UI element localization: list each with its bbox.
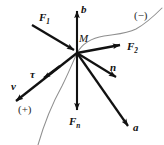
label-vector-F1: F1 bbox=[39, 12, 50, 26]
label-origin-M: M bbox=[79, 33, 88, 44]
vector-F1 bbox=[32, 25, 74, 50]
label-negative-direction: (−) bbox=[134, 10, 148, 21]
label-positive-direction: (+) bbox=[18, 104, 32, 115]
trajectory-curve bbox=[38, 8, 162, 145]
label-vector-Fn: Fn bbox=[69, 116, 80, 130]
vector-F2 bbox=[77, 45, 120, 53]
label-vector-v: v bbox=[11, 81, 16, 92]
label-vector-tau: τ bbox=[30, 69, 35, 80]
label-vector-a: a bbox=[133, 122, 139, 133]
vector-diagram-figure: b M F1 F2 n a Fn τ v (+) (−) bbox=[0, 0, 164, 145]
label-vector-b: b bbox=[81, 4, 87, 15]
label-F1-subscript: 1 bbox=[46, 18, 50, 26]
diagram-canvas bbox=[0, 0, 164, 145]
vector-tau bbox=[44, 66, 60, 78]
vector-a bbox=[77, 53, 128, 126]
label-Fn-subscript: n bbox=[76, 122, 80, 130]
label-F2-subscript: 2 bbox=[134, 47, 138, 55]
label-vector-F2: F2 bbox=[127, 41, 138, 55]
label-vector-n: n bbox=[110, 62, 116, 73]
